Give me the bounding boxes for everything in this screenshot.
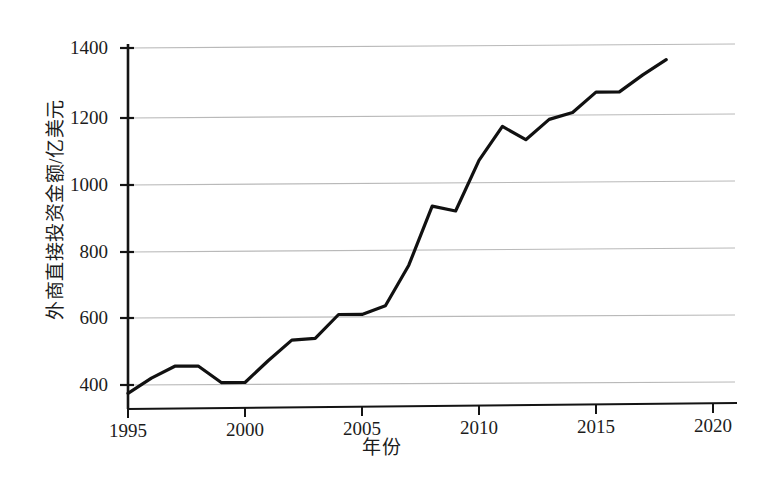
data-series-line — [128, 60, 666, 394]
gridline-1400 — [128, 44, 735, 48]
gridline-1200 — [128, 114, 735, 118]
y-axis-title: 外商直接投资金额/亿美元 — [40, 45, 67, 375]
gridline-600 — [128, 315, 735, 318]
chart-figure: 1400 1200 1000 800 600 400 1995 2000 200… — [0, 0, 763, 482]
line-chart-plot — [0, 0, 763, 482]
x-axis-spine — [127, 403, 737, 409]
gridline-800 — [128, 248, 735, 252]
y-tick-label-400: 400 — [46, 374, 108, 396]
x-axis-title: 年份 — [0, 432, 763, 459]
gridline-1000 — [128, 181, 735, 185]
gridlines — [128, 44, 735, 385]
